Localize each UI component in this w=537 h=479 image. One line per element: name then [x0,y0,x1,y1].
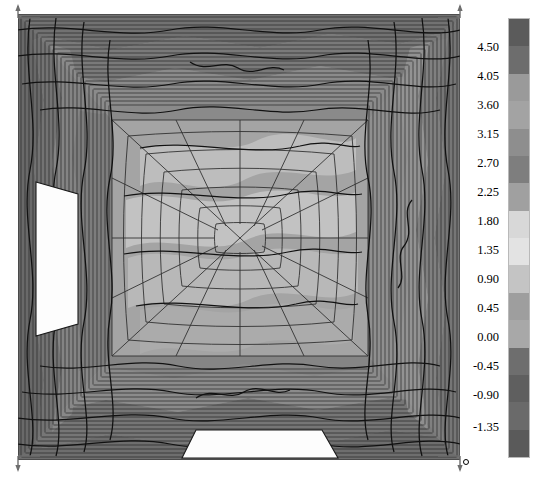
grayscale-contour-colorbar[interactable] [508,18,530,458]
colorbar-tick-label: 3.60 [455,99,499,111]
mesh-lines-floor-radial [112,120,368,356]
colorbar-band-10 [509,293,529,320]
colorbar-band-14 [509,402,529,429]
colorbar-band-11 [509,320,529,347]
colorbar-tick-label: 0.90 [455,273,499,285]
origin-marker-icon [463,459,469,465]
colorbar-band-6 [509,183,529,210]
colorbar-tick-label: 2.25 [455,186,499,198]
colorbar-tick-labels: 4.504.053.603.152.702.251.801.350.900.45… [455,0,505,479]
colorbar-band-2 [509,74,529,101]
colorbar-band-12 [509,348,529,375]
colorbar-band-9 [509,265,529,292]
colorbar-tick-label: 3.15 [455,128,499,140]
unfilled-patch-left-wall [36,182,78,336]
colorbar-band-5 [509,156,529,183]
colorbar-tick-label: 1.35 [455,244,499,256]
colorbar-band-3 [509,101,529,128]
colorbar-tick-label: 2.70 [455,157,499,169]
colorbar-tick-label: -0.45 [455,360,499,372]
colorbar-tick-label: 4.05 [455,70,499,82]
colorbar-band-13 [509,375,529,402]
figure-canvas: 4.504.053.603.152.702.251.801.350.900.45… [0,0,537,479]
colorbar-tick-label: 0.00 [455,331,499,343]
colorbar-band-0 [509,19,529,46]
colorbar-tick-label: 4.50 [455,41,499,53]
colorbar-band-1 [509,46,529,73]
colorbar-band-15 [509,430,529,457]
colorbar-band-4 [509,129,529,156]
colorbar-band-8 [509,238,529,265]
colorbar-tick-label: 0.45 [455,302,499,314]
colorbar-band-7 [509,211,529,238]
colorbar-tick-label: -0.90 [455,389,499,401]
unfilled-patch-bottom-wall [182,430,338,458]
colorbar-tick-label: 1.80 [455,215,499,227]
colorbar-tick-label: -1.35 [455,421,499,433]
